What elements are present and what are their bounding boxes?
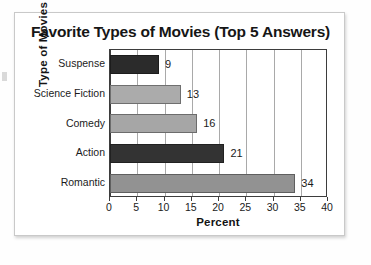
bar-science-fiction (110, 85, 181, 104)
x-tick-label-5: 5 (123, 201, 149, 213)
bar-row: 34 (110, 168, 326, 198)
category-label-comedy: Comedy (19, 114, 105, 133)
bar-suspense (110, 55, 159, 74)
bar-value-label: 13 (187, 85, 199, 104)
category-label-action: Action (19, 143, 105, 162)
bar-value-label: 16 (203, 114, 215, 133)
screenshot-root: Favorite Types of Movies (Top 5 Answers)… (0, 0, 371, 265)
category-label-suspense: Suspense (19, 54, 105, 73)
x-axis-ticks: 0510152025303540 (109, 201, 327, 217)
x-tick-label-15: 15 (178, 201, 204, 213)
x-tick-mark-0 (109, 197, 110, 201)
plot-area: 913162134 (109, 49, 327, 197)
x-tick-mark-35 (300, 197, 301, 201)
x-tick-mark-40 (327, 197, 328, 201)
bar-comedy (110, 114, 197, 133)
bar-row: 9 (110, 50, 326, 80)
bar-value-label: 9 (165, 55, 171, 74)
x-tick-mark-30 (273, 197, 274, 201)
x-tick-label-0: 0 (96, 201, 122, 213)
x-tick-label-30: 30 (260, 201, 286, 213)
x-tick-label-35: 35 (287, 201, 313, 213)
x-tick-label-25: 25 (232, 201, 258, 213)
x-tick-mark-20 (218, 197, 219, 201)
scan-artifact (2, 72, 7, 81)
x-tick-mark-15 (191, 197, 192, 201)
y-axis-category-labels: SuspenseScience FictionComedyActionRoman… (15, 49, 105, 197)
bar-value-label: 21 (230, 144, 242, 163)
x-tick-label-20: 20 (205, 201, 231, 213)
bar-value-label: 34 (301, 174, 313, 193)
bar-row: 16 (110, 109, 326, 139)
x-tick-mark-25 (245, 197, 246, 201)
bar-row: 13 (110, 80, 326, 110)
bar-action (110, 144, 224, 163)
bar-series: 913162134 (110, 50, 326, 196)
bar-row: 21 (110, 139, 326, 169)
x-tick-label-10: 10 (151, 201, 177, 213)
x-axis-title: Percent (109, 216, 327, 228)
category-label-science-fiction: Science Fiction (19, 84, 105, 103)
x-tick-mark-5 (136, 197, 137, 201)
category-label-romantic: Romantic (19, 173, 105, 192)
x-tick-mark-10 (164, 197, 165, 201)
bar-romantic (110, 174, 295, 193)
chart-title: Favorite Types of Movies (Top 5 Answers) (15, 23, 346, 41)
chart-card: Favorite Types of Movies (Top 5 Answers)… (14, 12, 345, 236)
x-tick-label-40: 40 (314, 201, 340, 213)
